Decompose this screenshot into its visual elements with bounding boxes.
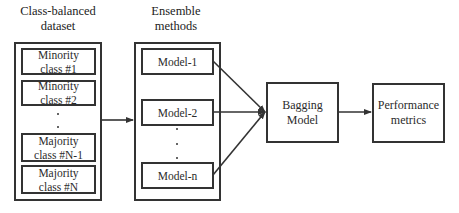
dataset-ellipsis-dot — [57, 126, 59, 128]
ensemble-ellipsis-dot — [176, 157, 178, 159]
ensemble-ellipsis-dot — [176, 128, 178, 130]
model-n-box: Model-n — [141, 162, 214, 189]
ensemble-group-title: Ensemble methods — [126, 4, 226, 34]
dataset-ellipsis-dot — [57, 113, 59, 115]
dataset-item-majority-class-n-1: Majority class #N-1 — [21, 133, 96, 162]
dataset-group-title: Class-balanced dataset — [4, 4, 112, 34]
performance-metrics-box: Performance metrics — [372, 83, 445, 143]
dataset-item-minority-class-1: Minority class #1 — [21, 48, 96, 75]
dataset-item-minority-class-2: Minority class #2 — [21, 80, 96, 106]
bagging-model-box: Bagging Model — [266, 82, 339, 143]
model-2-box: Model-2 — [141, 99, 214, 126]
dataset-item-majority-class-n: Majority class #N — [21, 165, 96, 194]
model-1-box: Model-1 — [141, 48, 214, 75]
ensemble-ellipsis-dot — [176, 143, 178, 145]
